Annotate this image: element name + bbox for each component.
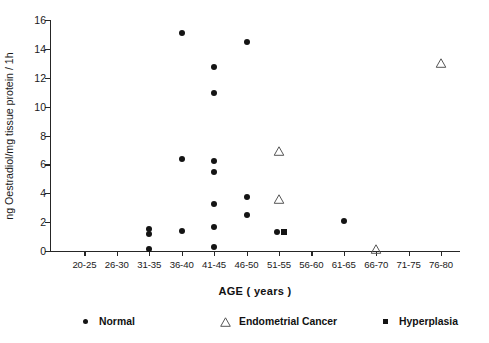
y-tick-label: 6 [40, 159, 46, 170]
filled-circle-marker-icon [274, 229, 280, 235]
filled-circle-marker-icon [244, 212, 250, 218]
x-axis-line [50, 251, 460, 252]
legend-item-hyperplasia[interactable]: Hyperplasia [380, 316, 458, 327]
open-triangle-marker-icon [436, 58, 447, 68]
open-triangle-marker-icon [273, 194, 284, 204]
filled-circle-marker-icon [211, 224, 217, 230]
filled-circle-marker-icon [211, 90, 217, 96]
legend-label: Hyperplasia [399, 316, 458, 327]
legend-label: Normal [99, 316, 135, 327]
legend-swatch [80, 317, 90, 327]
x-tick-label-36-40: 36-40 [170, 260, 194, 270]
x-tick-label-66-70: 66-70 [364, 260, 388, 270]
legend-swatch [220, 317, 230, 327]
y-tick-label: 8 [40, 130, 46, 141]
scatter-plot-figure: ng Oestradiol/mg tissue protein / 1h 024… [0, 0, 489, 343]
x-tick-mark-56-60 [311, 251, 312, 256]
plot-area: 0246810121416 20-2526-3031-3536-4041-454… [50, 20, 460, 252]
filled-circle-marker-icon [211, 169, 217, 175]
x-tick-mark-41-45 [214, 251, 215, 256]
legend-swatch [380, 317, 390, 327]
filled-circle-marker-icon [211, 158, 217, 164]
y-tick-label: 2 [40, 217, 46, 228]
filled-circle-marker-icon [83, 319, 88, 324]
y-tick-label: 12 [34, 73, 46, 84]
x-tick-label-56-60: 56-60 [299, 260, 323, 270]
x-tick-label-46-50: 46-50 [234, 260, 258, 270]
x-tick-label-20-25: 20-25 [72, 260, 96, 270]
y-tick-label: 16 [34, 15, 46, 26]
open-triangle-marker-icon [220, 317, 231, 327]
x-tick-label-71-75: 71-75 [397, 260, 421, 270]
x-tick-label-61-65: 61-65 [332, 260, 356, 270]
y-tick-label: 4 [40, 188, 46, 199]
x-tick-label-41-45: 41-45 [202, 260, 226, 270]
legend-item-endometrial-cancer[interactable]: Endometrial Cancer [220, 316, 337, 327]
y-tick-label: 10 [34, 101, 46, 112]
filled-circle-marker-icon [211, 64, 217, 70]
x-tick-label-26-30: 26-30 [105, 260, 129, 270]
filled-square-marker-icon [383, 319, 388, 324]
filled-circle-marker-icon [244, 194, 250, 200]
x-tick-mark-36-40 [182, 251, 183, 256]
x-tick-label-51-55: 51-55 [267, 260, 291, 270]
x-tick-label-76-80: 76-80 [429, 260, 453, 270]
x-tick-mark-51-55 [279, 251, 280, 256]
filled-circle-marker-icon [244, 39, 250, 45]
filled-circle-marker-icon [211, 244, 217, 250]
filled-circle-marker-icon [211, 201, 217, 207]
x-tick-mark-26-30 [117, 251, 118, 256]
x-tick-mark-20-25 [84, 251, 85, 256]
filled-square-marker-icon [281, 229, 287, 235]
open-triangle-marker-icon [273, 146, 284, 156]
filled-circle-marker-icon [179, 30, 185, 36]
y-axis-title: ng Oestradiol/mg tissue protein / 1h [2, 20, 16, 252]
y-axis-line [50, 20, 51, 252]
x-axis-title: AGE ( years ) [50, 285, 460, 297]
y-tick-label: 0 [40, 246, 46, 257]
filled-circle-marker-icon [341, 218, 347, 224]
x-tick-mark-76-80 [441, 251, 442, 256]
legend-label: Endometrial Cancer [239, 316, 337, 327]
legend-item-normal[interactable]: Normal [80, 316, 135, 327]
x-tick-label-31-35: 31-35 [137, 260, 161, 270]
x-tick-mark-61-65 [344, 251, 345, 256]
filled-circle-marker-icon [179, 228, 185, 234]
filled-circle-marker-icon [146, 246, 152, 252]
filled-circle-marker-icon [179, 156, 185, 162]
open-triangle-marker-icon [371, 244, 382, 254]
filled-circle-marker-icon [146, 231, 152, 237]
chart-legend: NormalEndometrial CancerHyperplasia [50, 316, 470, 336]
y-tick-label: 14 [34, 44, 46, 55]
x-tick-mark-71-75 [409, 251, 410, 256]
x-tick-mark-46-50 [247, 251, 248, 256]
